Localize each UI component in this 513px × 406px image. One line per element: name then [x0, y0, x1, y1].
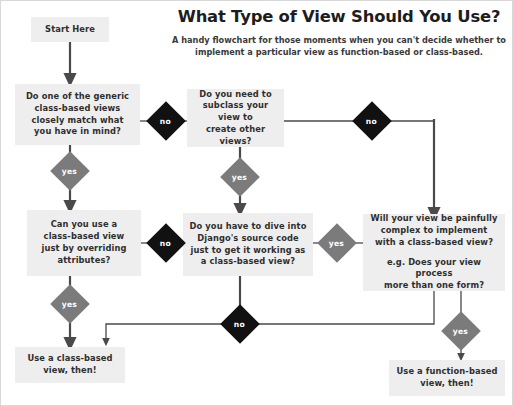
node-complex-question-line3: with a class-based view? [375, 237, 493, 249]
outcome-class-line2: view, then! [43, 365, 96, 377]
outcome-function-line2: view, then! [420, 378, 473, 390]
node-source-line3: just to get it working as [191, 245, 306, 257]
decision-attributes-yes-label: yes [62, 299, 77, 308]
edge-complex-no-line-right [254, 291, 434, 324]
node-source-line2: Django's source code [197, 233, 299, 245]
node-attributes-line4: attributes? [58, 255, 111, 267]
node-start[interactable]: Start Here [31, 17, 109, 42]
node-complex-question-line1: Will your view be painfully [370, 213, 497, 225]
node-subclass-line2: subclass your view to [192, 100, 279, 124]
node-subclass-question[interactable]: Do you need to subclass your view to cre… [187, 89, 284, 147]
flowchart-canvas: What Type of View Should You Use? A hand… [0, 0, 513, 406]
node-generic-line4: you have in mind? [34, 126, 121, 138]
edge-complex-no-line-left [106, 324, 226, 342]
decision-complex-yes-label: yes [453, 326, 468, 335]
edge-layer [1, 1, 513, 406]
node-complex-question[interactable]: Will your view be painfully complex to i… [363, 214, 505, 291]
node-complex-example-line2: more than one form? [384, 280, 484, 292]
decision-subclass-yes-label: yes [232, 172, 247, 181]
node-subclass-line3: create other views? [192, 124, 279, 148]
decision-generic-yes-label: yes [62, 166, 77, 175]
node-outcome-class-based[interactable]: Use a class-based view, then! [15, 347, 125, 383]
node-start-label: Start Here [45, 24, 95, 36]
node-attributes-question[interactable]: Can you use a class-based view just by o… [27, 210, 141, 276]
node-source-line4: a class-based view? [201, 256, 295, 268]
outcome-function-line1: Use a function-based [397, 366, 498, 378]
node-attributes-line3: just by overriding [42, 243, 127, 255]
decision-complex-no-label: no [234, 320, 245, 329]
decision-source-yes-label: yes [329, 238, 344, 247]
node-attributes-line2: class-based view [44, 231, 125, 243]
decision-subclass-no-label: no [366, 117, 377, 126]
node-source-code-question[interactable]: Do you have to dive into Django's source… [183, 213, 313, 276]
node-complex-example-line1: e.g. Does your view process [368, 257, 500, 281]
node-outcome-function-based[interactable]: Use a function-based view, then! [389, 360, 505, 396]
node-generic-line1: Do one of the generic [26, 91, 129, 103]
node-source-line1: Do you have to dive into [190, 221, 307, 233]
decision-generic-no-label: no [160, 117, 171, 126]
node-generic-line2: class-based views [35, 103, 121, 115]
node-subclass-line1: Do you need to [199, 89, 271, 101]
node-complex-question-line2: complex to implement [381, 225, 488, 237]
node-generic-line3: closely match what [31, 115, 123, 127]
outcome-class-line1: Use a class-based [27, 353, 112, 365]
decision-attributes-no-label: no [160, 239, 171, 248]
node-generic-views-question[interactable]: Do one of the generic class-based views … [15, 84, 140, 145]
node-attributes-line1: Can you use a [51, 219, 118, 231]
